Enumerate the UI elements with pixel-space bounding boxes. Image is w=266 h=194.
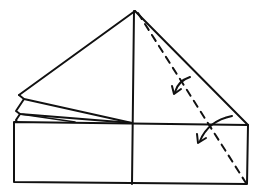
fold-arrow-lower-icon: [197, 116, 232, 143]
left-layered-flaps: [16, 95, 132, 123]
origami-diagram: [0, 0, 266, 194]
valley-fold-line: [138, 13, 246, 183]
center-crease: [132, 11, 134, 184]
base-rectangle: [14, 122, 248, 184]
